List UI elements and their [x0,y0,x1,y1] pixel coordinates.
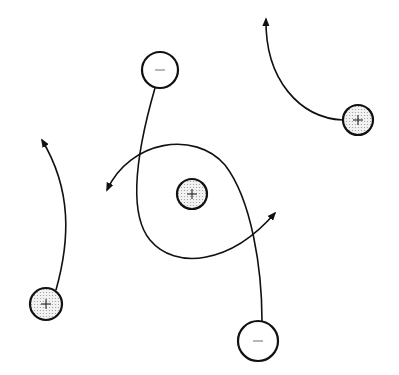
trajectory-arrow [42,140,66,290]
negative-charge-particle [142,52,178,88]
trajectory-arrow [137,88,275,258]
positive-charge-particle [343,105,373,135]
negative-charge-particle [238,321,278,361]
particle-trajectory-diagram [0,0,399,375]
trajectory-arrow [107,144,262,321]
particles [30,52,373,361]
trajectories [42,19,343,321]
positive-charge-particle [177,179,207,209]
positive-charge-particle [30,288,62,320]
trajectory-arrow [266,19,343,120]
